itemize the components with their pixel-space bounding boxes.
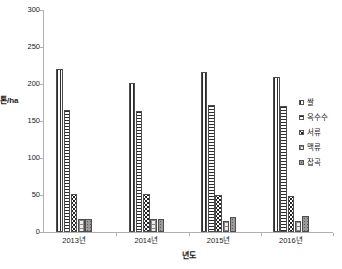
- bar: [78, 219, 85, 232]
- legend-swatch-icon: [299, 130, 304, 135]
- x-axis-tick-label: 2014년: [135, 236, 159, 246]
- plot-area: [44, 10, 333, 232]
- x-axis-tick-label: 2015년: [207, 236, 231, 246]
- bar-group: [56, 10, 91, 232]
- y-axis-tick-mark: [40, 232, 43, 233]
- legend-item-label: 서류: [307, 128, 321, 137]
- bar: [295, 221, 302, 232]
- y-axis-tick-label: 50: [14, 191, 40, 199]
- bar: [230, 217, 237, 232]
- y-axis-tick-label: 250: [14, 43, 40, 51]
- bar: [64, 110, 71, 232]
- legend-item-label: 쌀: [307, 98, 314, 107]
- bar: [302, 216, 309, 232]
- legend-swatch-icon: [299, 100, 304, 105]
- y-axis-tick-label: 200: [14, 80, 40, 88]
- bar: [158, 219, 165, 232]
- bar: [136, 111, 143, 232]
- x-axis-tick-label: 2016년: [279, 236, 303, 246]
- bar-group: [201, 10, 236, 232]
- y-axis-tick-mark: [40, 47, 43, 48]
- legend-item-label: 잡곡: [307, 158, 321, 167]
- bar: [71, 194, 78, 232]
- bar: [143, 194, 150, 232]
- y-axis-tick-label: 150: [14, 117, 40, 125]
- bar: [273, 77, 280, 232]
- y-axis-tick-mark: [40, 158, 43, 159]
- y-axis-tick-label: 300: [14, 6, 40, 14]
- bar: [280, 106, 287, 232]
- x-axis-tick-labels: 2013년2014년2015년2016년: [44, 236, 333, 250]
- bar-chart: 톤/ha 050100150200250300 2013년2014년2015년2…: [0, 0, 342, 269]
- bar: [85, 219, 92, 232]
- legend-item[interactable]: 서류: [299, 125, 342, 140]
- legend-item[interactable]: 맥류: [299, 140, 342, 155]
- bar: [129, 83, 136, 232]
- legend-item[interactable]: 옥수수: [299, 110, 342, 125]
- y-axis-tick-mark: [40, 195, 43, 196]
- legend-swatch-icon: [299, 115, 304, 120]
- legend-swatch-icon: [299, 145, 304, 150]
- x-axis-title: 년도: [44, 251, 333, 261]
- y-axis-tick-mark: [40, 84, 43, 85]
- bar: [150, 219, 157, 232]
- legend-swatch-icon: [299, 160, 304, 165]
- legend-item-label: 맥류: [307, 143, 321, 152]
- bar: [208, 105, 215, 232]
- legend-item[interactable]: 쌀: [299, 95, 342, 110]
- bar-group: [129, 10, 164, 232]
- y-axis-tick-label: 100: [14, 154, 40, 162]
- y-axis-tick-label: 0: [14, 228, 40, 236]
- legend-item-label: 옥수수: [307, 113, 328, 122]
- y-axis-tick-labels: 050100150200250300: [14, 0, 40, 269]
- chart-legend: 쌀옥수수서류맥류잡곡: [299, 95, 342, 170]
- legend-item[interactable]: 잡곡: [299, 155, 342, 170]
- y-axis-tick-mark: [40, 121, 43, 122]
- bar: [201, 72, 208, 232]
- bar: [56, 69, 63, 232]
- x-axis-tick-mark: [333, 233, 334, 236]
- bar: [288, 196, 295, 232]
- bar: [215, 195, 222, 232]
- x-axis-tick-label: 2013년: [62, 236, 86, 246]
- y-axis-tick-mark: [40, 10, 43, 11]
- bar: [223, 221, 230, 232]
